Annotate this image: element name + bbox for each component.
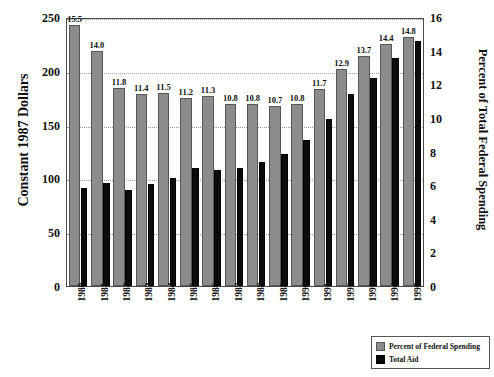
bar-percent-of-federal-spending (136, 94, 148, 286)
bar-percent-of-federal-spending (269, 106, 281, 286)
y-axis-right-tick-label: 14 (430, 44, 442, 59)
bar-value-label: 14.4 (379, 33, 394, 43)
y-axis-left-tick-label: 250 (42, 11, 60, 26)
y-axis-right-tick-label: 2 (430, 246, 436, 261)
bar-value-label: 12.9 (334, 58, 349, 68)
chart-legend: Percent of Federal Spending Total Aid (371, 336, 490, 369)
x-axis-tick-label: 1983 (144, 283, 154, 302)
x-axis-tick-labels: 1980198119821983198419851986198719881989… (66, 290, 424, 336)
x-axis-tick: 1984 (156, 290, 178, 336)
bar-value-label: 13.7 (356, 45, 371, 55)
x-axis-tick-label: 1982 (122, 283, 132, 302)
bar-total-aid (103, 183, 110, 286)
bar-percent-of-federal-spending (247, 104, 259, 286)
bar-total-aid (303, 140, 310, 286)
x-axis-tick-label: 1994 (390, 283, 400, 302)
bar-total-aid (237, 168, 244, 286)
bar-value-label: 11.8 (112, 77, 126, 87)
bar-group: 11.5 (156, 19, 178, 286)
bar-group: 14.0 (89, 19, 111, 286)
bar-chart-figure: Constant 1987 Dollars 050100150200250 15… (0, 0, 494, 377)
bar-total-aid (415, 41, 422, 286)
bar-total-aid (192, 168, 199, 286)
bar-percent-of-federal-spending (336, 69, 348, 286)
bar-percent-of-federal-spending (180, 98, 192, 286)
y-axis-left-tick-label: 150 (42, 118, 60, 133)
legend-item-total-aid: Total Aid (376, 353, 485, 366)
bar-group: 11.2 (178, 19, 200, 286)
y-axis-left-tick-label: 50 (48, 226, 60, 241)
y-axis-left-tick-label: 100 (42, 172, 60, 187)
bar-group: 10.8 (290, 19, 312, 286)
bar-value-label: 11.7 (312, 78, 326, 88)
x-axis-tick-label: 1989 (279, 283, 289, 302)
y-axis-right-tick-label: 8 (430, 145, 436, 160)
y-axis-left-tick-label: 200 (42, 64, 60, 79)
x-axis-tick-label: 1993 (368, 283, 378, 302)
bar-total-aid (370, 78, 377, 286)
x-axis-tick: 1989 (267, 290, 289, 336)
x-axis-tick: 1985 (178, 290, 200, 336)
legend-swatch-gray-icon (376, 342, 385, 351)
bar-total-aid (259, 162, 266, 286)
x-axis-tick-label: 1988 (256, 283, 266, 302)
x-axis-tick: 1988 (245, 290, 267, 336)
bar-total-aid (125, 190, 132, 286)
bar-group: 12.9 (334, 19, 356, 286)
bar-total-aid (170, 178, 177, 286)
y-axis-right-tick-label: 16 (430, 11, 442, 26)
legend-label: Total Aid (389, 355, 419, 364)
x-axis-tick-label: 1995 (413, 283, 423, 302)
x-axis-tick-label: 1991 (323, 283, 333, 302)
bar-value-label: 10.8 (245, 93, 260, 103)
legend-item-percent-of-federal-spending: Percent of Federal Spending (376, 340, 485, 353)
y-axis-left-tick-label: 0 (54, 280, 60, 295)
bar-group: 11.4 (134, 19, 156, 286)
bar-value-label: 14.8 (401, 26, 416, 36)
x-axis-tick: 1992 (335, 290, 357, 336)
bar-percent-of-federal-spending (69, 25, 81, 286)
x-axis-tick: 1993 (357, 290, 379, 336)
bar-value-label: 11.5 (156, 82, 170, 92)
x-axis-tick-label: 1981 (100, 283, 110, 302)
x-axis-tick-label: 1986 (211, 283, 221, 302)
bar-value-label: 10.8 (290, 93, 305, 103)
y-axis-right-title: Percent of Total Federal Spending (475, 20, 490, 260)
bar-group: 11.7 (312, 19, 334, 286)
x-axis-tick: 1991 (312, 290, 334, 336)
bar-total-aid (281, 154, 288, 286)
plot-area: 15.514.011.811.411.511.211.310.810.810.7… (66, 18, 424, 287)
y-axis-right-tick-label: 12 (430, 78, 442, 93)
bar-value-label: 10.8 (223, 93, 238, 103)
bar-value-label: 11.4 (134, 83, 148, 93)
x-axis-tick: 1987 (223, 290, 245, 336)
bar-total-aid (81, 188, 88, 286)
bar-group: 10.7 (267, 19, 289, 286)
x-axis-tick-label: 1990 (301, 283, 311, 302)
x-axis-tick: 1986 (200, 290, 222, 336)
bar-total-aid (214, 170, 221, 286)
x-axis-tick: 1994 (379, 290, 401, 336)
x-axis-tick: 1983 (133, 290, 155, 336)
bar-group: 14.8 (401, 19, 423, 286)
bar-total-aid (392, 58, 399, 286)
legend-label: Percent of Federal Spending (389, 342, 480, 351)
x-axis-tick: 1995 (402, 290, 424, 336)
x-axis-tick: 1982 (111, 290, 133, 336)
y-axis-right-tick-label: 4 (430, 212, 436, 227)
bar-percent-of-federal-spending (113, 88, 125, 286)
bar-percent-of-federal-spending (403, 37, 415, 286)
legend-swatch-black-icon (376, 355, 385, 364)
bar-group: 15.5 (67, 19, 89, 286)
bar-group: 10.8 (223, 19, 245, 286)
bar-percent-of-federal-spending (91, 51, 103, 286)
bar-total-aid (326, 119, 333, 286)
bar-percent-of-federal-spending (314, 89, 326, 286)
bar-value-label: 10.7 (267, 95, 282, 105)
x-axis-tick: 1981 (88, 290, 110, 336)
x-axis-tick-label: 1980 (77, 283, 87, 302)
bar-percent-of-federal-spending (358, 56, 370, 286)
x-axis-tick-label: 1987 (234, 283, 244, 302)
bar-percent-of-federal-spending (291, 104, 303, 286)
x-axis-tick: 1980 (66, 290, 88, 336)
